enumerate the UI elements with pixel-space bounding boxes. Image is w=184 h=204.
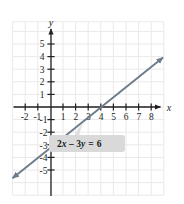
eq-rhs: 6 bbox=[97, 139, 102, 149]
y-tick-label: 4 bbox=[40, 52, 45, 62]
y-tick-label: -1 bbox=[40, 115, 48, 125]
y-tick-label: -5 bbox=[40, 166, 48, 176]
y-tick-label: -3 bbox=[40, 141, 48, 151]
y-tick-label: 1 bbox=[40, 90, 45, 100]
x-tick-label: 1 bbox=[61, 112, 66, 122]
graph-figure: x y -2 -1 1 2 3 bbox=[0, 0, 184, 204]
y-tick-label: 5 bbox=[40, 39, 45, 49]
x-tick-label: -2 bbox=[21, 112, 29, 122]
x-axis-label: x bbox=[166, 102, 172, 113]
y-tick-label: -2 bbox=[40, 128, 48, 138]
eq-var-y: y bbox=[80, 139, 86, 149]
x-tick-label: 7 bbox=[136, 112, 141, 122]
eq-minus: – bbox=[68, 139, 74, 149]
x-tick-label: 6 bbox=[124, 112, 129, 122]
coordinate-plane: x y -2 -1 1 2 3 bbox=[0, 0, 184, 204]
x-tick-label: 4 bbox=[99, 112, 104, 122]
eq-equals: = bbox=[88, 139, 93, 149]
eq-var-x: x bbox=[61, 139, 67, 149]
y-axis-label: y bbox=[48, 17, 54, 28]
y-tick-label: 2 bbox=[40, 77, 45, 87]
y-tick-label: 3 bbox=[40, 65, 45, 75]
x-tick-label: 5 bbox=[111, 112, 116, 122]
x-tick-label: 8 bbox=[149, 112, 154, 122]
equation-callout: 2x–3y=6 bbox=[49, 135, 125, 152]
x-tick-label: 2 bbox=[73, 112, 78, 122]
